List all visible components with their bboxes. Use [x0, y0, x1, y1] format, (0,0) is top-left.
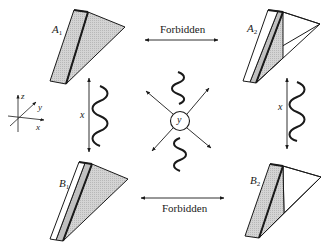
- wedge-label-b2: B2: [250, 175, 260, 188]
- wedge-label-subscript: 2: [254, 28, 258, 36]
- wedge-label-subscript: 1: [59, 29, 63, 37]
- wedge-label-a1: A1: [52, 24, 62, 37]
- diagram-canvas: A1 A2 B1 B2 Forbidden Forbidden x x y z …: [0, 0, 330, 248]
- wedge-label-subscript: 1: [66, 183, 70, 191]
- wave-left: [93, 86, 108, 146]
- center-arrow-up-right: [187, 88, 209, 114]
- axis-label-z: z: [21, 92, 25, 101]
- center-arrow-down-right: [187, 128, 211, 148]
- wedge-label-a2: A2: [247, 23, 257, 36]
- forbidden-label-bottom: Forbidden: [162, 203, 207, 214]
- wedge-a1: [50, 10, 125, 84]
- wedge-label-subscript: 2: [257, 180, 261, 188]
- wave-center-top: [172, 72, 184, 104]
- wedge-b1: [50, 162, 128, 241]
- wedge-a2: [243, 10, 320, 83]
- x-label-right: x: [278, 102, 282, 112]
- wedge-label-letter: A: [247, 22, 254, 34]
- center-label: y: [177, 115, 181, 125]
- wave-right: [290, 82, 305, 141]
- wedge-label-letter: A: [52, 23, 59, 35]
- wedge-label-b1: B1: [59, 178, 69, 191]
- forbidden-label-top: Forbidden: [160, 24, 205, 35]
- wedge-label-letter: B: [250, 174, 257, 186]
- axis-label-x: x: [36, 123, 40, 132]
- center-arrow-up-left: [146, 91, 173, 114]
- center-arrow-down-left: [152, 128, 173, 151]
- wedge-label-letter: B: [59, 177, 66, 189]
- wave-center-bottom: [174, 138, 186, 171]
- axis-label-y: y: [38, 103, 42, 112]
- x-label-left: x: [80, 110, 84, 120]
